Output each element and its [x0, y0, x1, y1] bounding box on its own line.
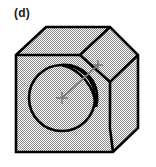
figure-panel: (d) — [0, 0, 156, 167]
isometric-cube-diagram — [0, 0, 156, 167]
panel-label: (d) — [14, 6, 30, 20]
